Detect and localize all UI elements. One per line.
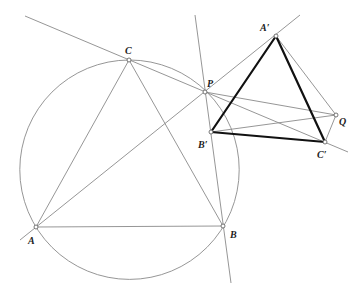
- point-b-prime: [209, 130, 213, 134]
- triangle-abc: [36, 60, 223, 227]
- point-c: [127, 58, 131, 62]
- label-c: C: [125, 45, 132, 56]
- point-markers: [34, 34, 338, 229]
- label-p: P: [207, 78, 214, 89]
- point-q: [334, 113, 338, 117]
- point-a: [34, 225, 38, 229]
- point-c-prime: [323, 140, 327, 144]
- geometry-diagram: A B C P A′ B′ C′ Q: [0, 0, 364, 298]
- label-q: Q: [339, 116, 346, 127]
- construction-lines: [20, 15, 348, 283]
- label-a: A: [27, 235, 35, 246]
- label-c-prime: C′: [317, 149, 327, 160]
- label-a-prime: A′: [259, 22, 270, 33]
- point-p: [203, 90, 207, 94]
- label-b: B: [229, 229, 237, 240]
- triangle-a-prime-b-prime-c-prime: [211, 36, 325, 142]
- label-b-prime: B′: [197, 139, 208, 150]
- point-a-prime: [274, 34, 278, 38]
- point-b: [221, 224, 225, 228]
